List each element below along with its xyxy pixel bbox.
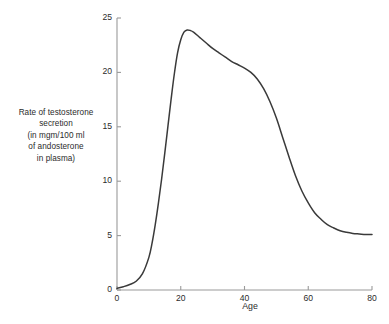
chart-figure: Rate of testosterone secretion (in mgm/1… [0, 0, 389, 324]
x-tick-label: 60 [297, 293, 319, 303]
y-tick-label: 20 [90, 66, 112, 76]
y-axis-ticks [117, 18, 121, 290]
plot-canvas [0, 0, 389, 324]
x-tick-label: 20 [170, 293, 192, 303]
x-axis-ticks [117, 286, 372, 290]
x-tick-label: 0 [106, 293, 128, 303]
data-series-line [117, 30, 372, 288]
y-tick-label: 5 [90, 230, 112, 240]
y-tick-label: 15 [90, 121, 112, 131]
x-axis-label: Age [220, 301, 280, 311]
axis-lines [117, 18, 372, 290]
y-tick-label: 10 [90, 175, 112, 185]
y-tick-label: 25 [90, 12, 112, 22]
x-tick-label: 80 [361, 293, 383, 303]
